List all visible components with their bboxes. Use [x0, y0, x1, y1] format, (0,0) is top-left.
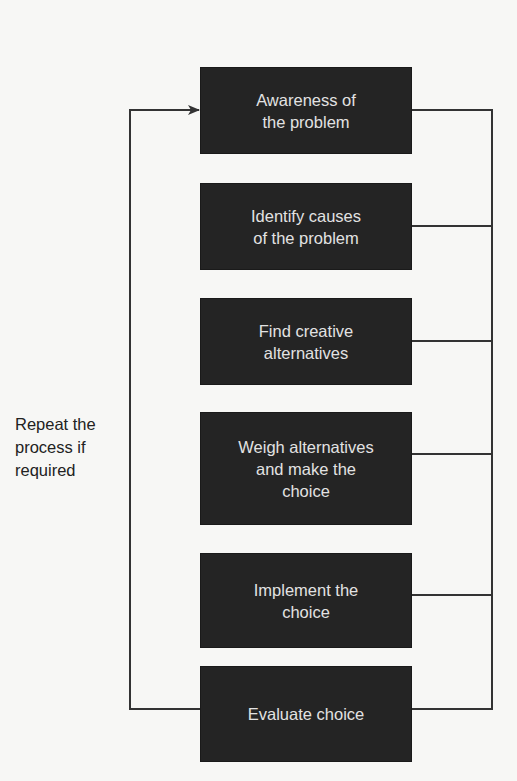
- step-weigh-alternatives: Weigh alternatives and make the choice: [200, 412, 412, 525]
- step-label: Weigh alternatives and make the choice: [226, 436, 385, 502]
- step-evaluate: Evaluate choice: [200, 666, 412, 762]
- step-label: Implement the choice: [242, 579, 371, 623]
- feedback-loop-line: [130, 110, 200, 709]
- decision-making-flowchart: Awareness of the problem Identify causes…: [0, 0, 517, 781]
- step-awareness: Awareness of the problem: [200, 67, 412, 154]
- step-label: Evaluate choice: [236, 703, 377, 725]
- step-implement: Implement the choice: [200, 553, 412, 648]
- step-find-alternatives: Find creative alternatives: [200, 298, 412, 385]
- step-label: Awareness of the problem: [244, 89, 368, 133]
- feedback-loop-label: Repeat the process if required: [15, 413, 125, 482]
- step-identify-causes: Identify causes of the problem: [200, 183, 412, 270]
- step-label: Find creative alternatives: [247, 320, 365, 364]
- step-label: Identify causes of the problem: [239, 205, 373, 249]
